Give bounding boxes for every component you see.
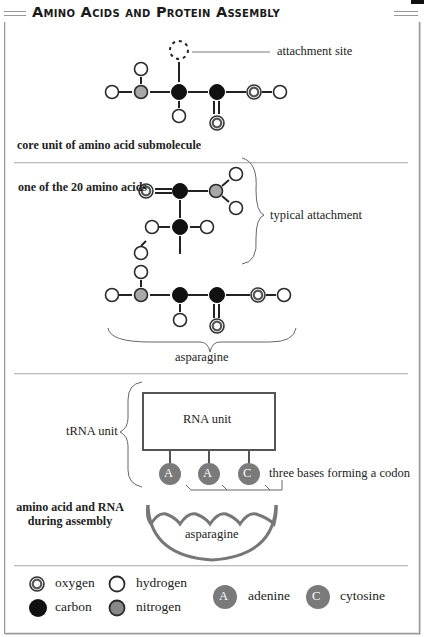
legend-oxygen-label: oxygen bbox=[55, 575, 95, 591]
asparagine-brace bbox=[108, 328, 296, 352]
amino-acid-slot-label: asparagine bbox=[185, 527, 238, 542]
legend-cytosine-label: cytosine bbox=[340, 588, 385, 604]
base-label-1: A bbox=[164, 466, 173, 481]
legend-hydrogen-label: hydrogen bbox=[136, 575, 187, 591]
assembly-caption-line1: amino acid and RNA bbox=[10, 500, 130, 515]
base-label-2: A bbox=[203, 466, 212, 481]
asparagine-label: asparagine bbox=[175, 350, 228, 365]
typical-attachment-brace bbox=[242, 158, 264, 264]
legend-carbon-label: carbon bbox=[55, 599, 92, 615]
rna-unit-label: RNA unit bbox=[183, 412, 231, 427]
amino-acids-caption: one of the 20 amino acids bbox=[18, 180, 147, 195]
legend-adenine-symbol: A bbox=[219, 589, 228, 604]
codon-bracket bbox=[186, 480, 282, 490]
legend-cytosine-symbol: C bbox=[312, 589, 320, 604]
legend-carbon-icon bbox=[29, 599, 47, 617]
legend-nitrogen-label: nitrogen bbox=[136, 599, 181, 615]
trna-brace bbox=[120, 382, 142, 487]
trna-unit-label: tRNA unit bbox=[66, 424, 118, 439]
assembly-caption-line2: during assembly bbox=[10, 514, 130, 529]
legend-hydrogen-icon bbox=[110, 577, 125, 592]
attachment-site-placeholder bbox=[170, 41, 188, 59]
legend-nitrogen-icon bbox=[110, 601, 125, 616]
attachment-site-label: attachment site bbox=[277, 44, 352, 59]
legend-adenine-label: adenine bbox=[248, 588, 290, 604]
amino-acid-slot-top bbox=[147, 505, 276, 524]
core-unit-caption: core unit of amino acid submolecule bbox=[17, 138, 201, 153]
typical-attachment-label: typical attachment bbox=[270, 208, 362, 223]
base-label-3: C bbox=[243, 466, 251, 481]
codon-label: three bases forming a codon bbox=[269, 466, 410, 481]
